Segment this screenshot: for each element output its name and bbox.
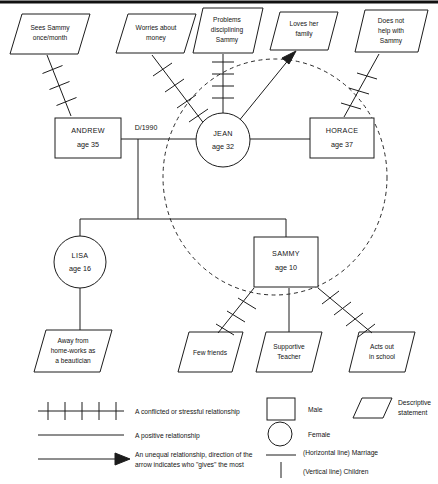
statement-line2: in school (369, 353, 396, 360)
link-andrew-sees-sammy (43, 55, 77, 116)
link-jean-loves-family (238, 51, 296, 122)
legend-square-symbol (267, 398, 295, 420)
statement-line1: Sees Sammy (30, 24, 70, 32)
statement-line2: disciplining (211, 26, 244, 34)
statement-sees-sammy: Sees Sammy once/month (10, 14, 90, 54)
statement-line2: family (295, 30, 313, 38)
statement-line2: once/month (33, 34, 68, 41)
link-jean-problems-disciplining (212, 54, 234, 121)
arrowhead-icon (282, 51, 296, 64)
legend-parallelogram-symbol (353, 398, 392, 418)
legend-label: Male (308, 406, 323, 413)
person-age: age 37 (331, 140, 353, 149)
statement-line2: Teacher (277, 353, 301, 360)
person-sammy: SAMMY age 10 (254, 237, 318, 287)
statement-line1: Worries about (136, 24, 177, 31)
statement-line2: help with (378, 27, 404, 35)
legend-item-conflicted: A conflicted or stressful relationship (38, 402, 240, 420)
genogram-diagram: Sees Sammy once/month Worries about mone… (0, 0, 438, 484)
person-age: age 35 (77, 140, 99, 149)
genogram-canvas: Sees Sammy once/month Worries about mone… (0, 0, 438, 484)
male-square-shape (55, 118, 121, 158)
statement-line1: Supportive (273, 343, 305, 351)
statement-problems-disciplining: Problems disciplining Sammy (193, 8, 263, 53)
legend-circle-symbol (268, 422, 292, 446)
person-name: JEAN (213, 129, 233, 138)
female-circle-shape (54, 236, 106, 288)
legend-label: A conflicted or stressful relationship (135, 408, 240, 416)
statement-loves-family: Loves her family (270, 12, 338, 50)
legend-item-unequal: An unequal relationship, direction of th… (38, 451, 253, 469)
statement-line2: money (146, 34, 166, 42)
legend-item-female: Female (268, 422, 331, 446)
person-horace: HORACE age 37 (310, 118, 374, 158)
male-square-shape (254, 237, 318, 287)
person-age: age 32 (212, 142, 234, 151)
legend-label: (Horizontal line) Marriage (303, 449, 378, 457)
statement-line1: Does not (378, 17, 405, 24)
statement-line1: Few friends (193, 349, 228, 356)
legend-item-children: (Vertical line) Children (281, 462, 369, 478)
statement-away-from-home: Away from home-works as a beautician (34, 330, 112, 372)
legend-arrowhead-icon (115, 453, 130, 465)
person-lisa: LISA age 16 (54, 236, 106, 288)
legend-label: A positive relationship (135, 432, 200, 440)
statement-supportive-teacher: Supportive Teacher (256, 332, 322, 372)
statement-acts-out: Acts out in school (349, 332, 415, 372)
legend-item-male: Male (267, 398, 323, 420)
male-square-shape (310, 118, 374, 158)
link-sammy-acts-out (318, 288, 375, 337)
parallelogram-shape (256, 332, 322, 372)
person-age: age 16 (69, 264, 91, 273)
legend-label-line2: arrow indicates who "gives" the most (135, 461, 244, 469)
legend-label: (Vertical line) Children (303, 468, 369, 476)
legend-label: Female (308, 431, 331, 438)
legend-label-line1: Descriptive (398, 399, 431, 407)
statement-line3: Sammy (380, 37, 403, 45)
link-horace-does-not-help (341, 54, 379, 117)
statement-few-friends: Few friends (178, 332, 243, 372)
legend-label-line1: An unequal relationship, direction of th… (135, 451, 253, 459)
statement-line2: home-works as (51, 347, 96, 354)
statement-line1: Problems (213, 16, 242, 23)
person-name: HORACE (326, 126, 359, 135)
statement-worries-money: Worries about money (116, 14, 196, 53)
marriage-label-andrew-jean: D/1990 (135, 124, 158, 131)
person-name: LISA (72, 251, 89, 260)
person-name: ANDREW (71, 126, 105, 135)
statement-line1: Acts out (370, 343, 394, 350)
statement-line3: a beautician (55, 357, 91, 364)
legend-item-marriage: (Horizontal line) Marriage (266, 449, 378, 457)
legend-label-line2: statement (398, 409, 428, 416)
legend-item-descriptive-statement: Descriptive statement (353, 398, 431, 418)
statement-does-not-help: Does not help with Sammy (355, 10, 428, 52)
parallelogram-shape (349, 332, 415, 372)
person-name: SAMMY (272, 249, 300, 258)
person-andrew: ANDREW age 35 (55, 118, 121, 158)
person-jean: JEAN age 32 (196, 113, 250, 167)
person-age: age 10 (275, 263, 297, 272)
statement-line3: Sammy (216, 36, 239, 44)
statement-line1: Loves her (290, 20, 320, 27)
female-circle-shape (196, 113, 250, 167)
legend-item-positive: A positive relationship (38, 432, 200, 440)
statement-line1: Away from (57, 337, 89, 345)
link-sammy-few-friends (216, 288, 256, 335)
